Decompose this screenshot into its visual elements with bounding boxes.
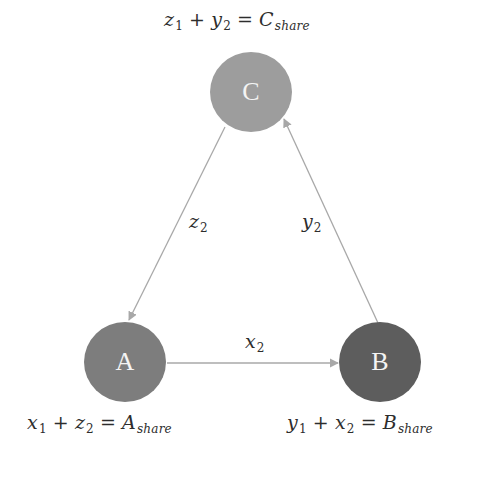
node-c: C (210, 52, 292, 132)
formula-a-equals: = (100, 411, 116, 433)
formula-b-term1: y (287, 411, 298, 433)
node-a-label: A (116, 347, 135, 377)
node-b-label: B (371, 347, 388, 377)
edge-label-y2-sub: 2 (314, 221, 322, 235)
formula-c-term1-sub: 1 (175, 19, 183, 33)
formula-b-equals: = (361, 411, 377, 433)
edge-label-x2-sub: 2 (257, 341, 265, 355)
edge-label-z2-sub: 2 (200, 221, 208, 235)
edge-b-to-c (284, 119, 378, 323)
formula-c-rhs-sub: share (275, 19, 310, 33)
node-c-label: C (242, 77, 259, 107)
edge-label-y2: y2 (302, 210, 321, 235)
edge-label-x2-var: x (245, 330, 256, 352)
formula-a-term1-sub: 1 (39, 422, 47, 436)
node-a: A (84, 322, 166, 402)
formula-a-plus: + (53, 411, 69, 433)
edge-label-x2: x2 (245, 330, 264, 355)
formula-a-term2-sub: 2 (86, 422, 94, 436)
formula-c-equals: = (237, 8, 253, 30)
formula-b-rhs: B (383, 411, 397, 433)
formula-b-term1-sub: 1 (299, 422, 307, 436)
node-b: B (339, 322, 421, 402)
formula-b-term2-sub: 2 (347, 422, 355, 436)
formula-a-share: x1+z2=Ashare (27, 411, 172, 436)
edge-label-z2-var: z (189, 210, 199, 232)
edge-label-z2: z2 (189, 210, 208, 235)
formula-c-term2: y (211, 8, 222, 30)
formula-c-term1: z (164, 8, 174, 30)
formula-b-share: y1+x2=Bshare (287, 411, 433, 436)
formula-a-term2: z (75, 411, 85, 433)
formula-b-rhs-sub: share (398, 422, 433, 436)
formula-a-rhs: A (122, 411, 136, 433)
formula-b-term2: x (335, 411, 346, 433)
formula-c-term2-sub: 2 (223, 19, 231, 33)
formula-a-term1: x (27, 411, 38, 433)
formula-c-share: z1+y2=Cshare (164, 8, 310, 33)
edge-c-to-a (129, 127, 225, 320)
edge-label-y2-var: y (302, 210, 313, 232)
formula-c-rhs: C (259, 8, 274, 30)
share-triangle-diagram: C A B z2 y2 x2 z1+y2=Cshare x1+z2=Ashare… (0, 0, 490, 482)
formula-a-rhs-sub: share (137, 422, 172, 436)
formula-c-plus: + (189, 8, 205, 30)
formula-b-plus: + (313, 411, 329, 433)
